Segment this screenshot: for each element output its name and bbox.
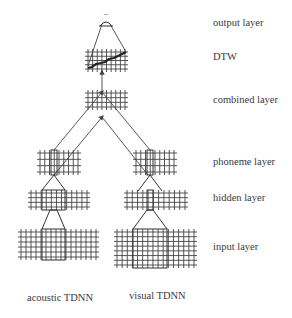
acoustic-outer-to-combined — [54, 92, 102, 150]
visual-input-grid — [114, 229, 197, 268]
label-visual-tdnn: visual TDNN — [129, 290, 186, 301]
visual-input-window — [133, 229, 167, 268]
label-acoustic-tdnn: acoustic TDNN — [27, 292, 93, 303]
acoustic-phoneme-grid — [37, 150, 81, 175]
combined-grid — [85, 90, 128, 110]
acoustic-input-window — [42, 229, 65, 260]
label-input-layer: input layer — [213, 241, 258, 252]
label-hidden-layer: hidden layer — [213, 192, 265, 203]
acoustic-input-to-hidden-cone — [42, 210, 65, 229]
visual-input-to-hidden-cone — [133, 210, 167, 229]
visual-hidden-to-phoneme-cone — [138, 175, 162, 191]
acoustic-hidden-grid — [28, 190, 90, 210]
output-marker: – — [103, 8, 109, 18]
dtw-to-output-left — [88, 24, 102, 66]
acoustic-input-grid — [18, 229, 99, 260]
label-dtw: DTW — [213, 51, 237, 62]
visual-hidden-grid — [124, 190, 188, 210]
label-output-layer: output layer — [213, 17, 263, 28]
label-combined-layer: combined layer — [213, 94, 278, 105]
visual-outer-to-combined — [102, 92, 150, 150]
label-phoneme-layer: phoneme layer — [213, 156, 275, 167]
visual-phoneme-grid — [133, 150, 177, 175]
dtw-to-output-right — [110, 24, 126, 52]
acoustic-hidden-to-phoneme-cone — [42, 175, 65, 190]
